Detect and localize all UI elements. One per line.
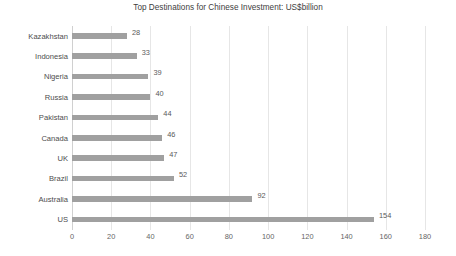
x-axis-tick-labels: 020406080100120140160180 [72, 232, 425, 246]
y-axis-label-us: US [2, 215, 68, 224]
x-tick-label: 80 [225, 232, 233, 241]
bar [72, 155, 164, 161]
bar [72, 74, 148, 80]
bar-row: 39 [72, 67, 425, 87]
y-axis-label-pakistan: Pakistan [2, 113, 68, 122]
x-tick-label: 100 [262, 232, 274, 241]
x-tick-label: 20 [107, 232, 115, 241]
bar [72, 115, 158, 121]
x-tick-label: 40 [146, 232, 154, 241]
bar [72, 33, 127, 39]
bar-value-label: 52 [179, 170, 187, 179]
y-axis-label-canada: Canada [2, 134, 68, 143]
bar-value-label: 28 [132, 28, 140, 37]
x-tick-label: 120 [301, 232, 313, 241]
bar-row: 33 [72, 46, 425, 66]
bar [72, 196, 252, 202]
bar-row: 52 [72, 169, 425, 189]
bar-value-label: 40 [155, 89, 163, 98]
bar [72, 176, 174, 182]
bar [72, 53, 137, 59]
chart-title: Top Destinations for Chinese Investment:… [0, 3, 456, 12]
bar-value-label: 39 [153, 68, 161, 77]
y-axis-label-uk: UK [2, 154, 68, 163]
bar-row: 47 [72, 148, 425, 168]
x-tick-label: 140 [340, 232, 352, 241]
x-tick-label: 160 [380, 232, 392, 241]
bar [72, 135, 162, 141]
bar-row: 28 [72, 26, 425, 46]
bar-value-label: 46 [167, 130, 175, 139]
plot-area: 283339404446475292154 [72, 26, 425, 230]
bar-row: 46 [72, 128, 425, 148]
bar-value-label: 92 [257, 191, 265, 200]
y-axis-label-nigeria: Nigeria [2, 72, 68, 81]
bar [72, 94, 150, 100]
gridline [425, 26, 426, 230]
y-axis-label-brazil: Brazil [2, 174, 68, 183]
x-tick-label: 60 [186, 232, 194, 241]
y-axis-label-indonesia: Indonesia [2, 52, 68, 61]
y-axis-label-australia: Australia [2, 195, 68, 204]
bar-row: 154 [72, 210, 425, 230]
y-axis-label-russia: Russia [2, 93, 68, 102]
bar-row: 40 [72, 87, 425, 107]
x-tick-label: 180 [419, 232, 431, 241]
bar-value-label: 44 [163, 109, 171, 118]
y-axis-category-labels: KazakhstanIndonesiaNigeriaRussiaPakistan… [0, 26, 68, 230]
bar [72, 217, 374, 223]
bar-value-label: 33 [142, 48, 150, 57]
bar-chart: Top Destinations for Chinese Investment:… [0, 0, 456, 256]
y-axis-label-kazakhstan: Kazakhstan [2, 32, 68, 41]
bar-row: 92 [72, 189, 425, 209]
bar-value-label: 154 [379, 211, 391, 220]
bar-row: 44 [72, 108, 425, 128]
x-tick-label: 0 [70, 232, 74, 241]
bar-value-label: 47 [169, 150, 177, 159]
